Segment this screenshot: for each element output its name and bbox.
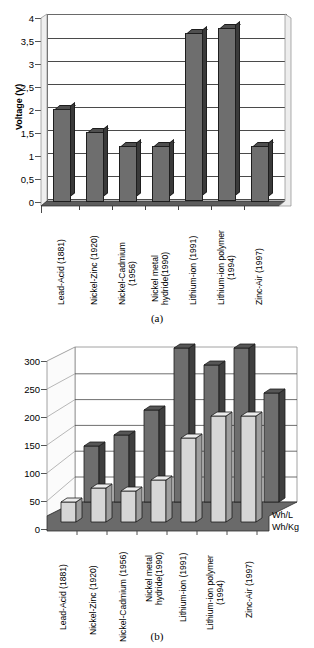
xlabel-line1: Nickel-Zinc (1920) — [88, 565, 98, 635]
chart-b-energy-density: 300 250 200 150 100 50 0 — [0, 330, 314, 648]
chart-b-xlabel-lithium-ion-polymer: Lithium-ion polymer (1994) — [206, 555, 225, 630]
chart-b-xlabel-nickel-cadmium: Nickel-Cadmium (1956) — [118, 552, 128, 642]
chart-b-xlabel-lead-acid: Lead-Acid (1881) — [58, 564, 68, 630]
xlabel-line1: Zinc-Air (1997) — [244, 561, 254, 618]
chart-a-x-tickmark — [112, 206, 113, 210]
xlabel-line2: (1994) — [227, 230, 237, 305]
xlabel-line1: Nickel-Zinc (1920) — [89, 235, 99, 305]
xlabel-line2: hydride(1990) — [161, 252, 171, 305]
xlabel-line1: Lithium-ion (1991) — [188, 236, 198, 305]
bar-nickel-cadmium — [119, 146, 137, 202]
chart-a-x-tickmark — [211, 206, 212, 210]
chart-a-x-tickmark — [244, 206, 245, 210]
chart-a-ytick-0: 0 — [2, 197, 34, 208]
chart-a-x-tickmark — [79, 206, 80, 210]
chart-a-xlabel-lead-acid: Lead-Acid (1881) — [56, 239, 66, 305]
bar-lithium-ion-polymer — [218, 28, 236, 201]
bar-zinc-air — [251, 146, 269, 202]
chart-a-ytick-2.5: 2,5 — [2, 82, 34, 93]
chart-a-ytick-1.5: 1,5 — [2, 128, 34, 139]
xlabel-line1: Nickel-Cadmium (1956) — [118, 552, 128, 642]
bar-nickel-zinc — [86, 132, 104, 202]
chart-a-ytick-3: 3 — [2, 59, 34, 70]
bar-lithium-ion — [185, 33, 203, 201]
bar-side-face — [169, 139, 174, 197]
chart-b-xlabel-zinc-air: Zinc-Air (1997) — [244, 561, 254, 618]
bar-lead-acid — [53, 109, 71, 202]
bar-side-face — [136, 139, 141, 197]
chart-a-gridline — [48, 38, 286, 39]
bar-side-face — [235, 21, 240, 196]
chart-a-xlabel-lithium-ion: Lithium-ion (1991) — [188, 236, 198, 305]
chart-b-xlabel-nickel-zinc: Nickel-Zinc (1920) — [88, 565, 98, 635]
chart-b-caption: (b) — [0, 630, 314, 642]
bar-side-face — [268, 139, 273, 197]
chart-a-ytick-2: 2 — [2, 105, 34, 116]
legend-item-whl: Wh/L — [272, 510, 293, 520]
chart-a-ytick-4: 4 — [2, 13, 34, 24]
xlabel-line1: Zinc-Air (1997) — [254, 248, 264, 305]
chart-a-gridline — [48, 130, 286, 131]
bar-nickel-metal-hydride — [152, 146, 170, 202]
chart-a-ytick-3.5: 3,5 — [2, 36, 34, 47]
bar-side-face — [202, 26, 207, 196]
chart-a-gridline — [48, 84, 286, 85]
bar-side-face — [70, 102, 75, 197]
chart-a-xlabel-zinc-air: Zinc-Air (1997) — [254, 248, 264, 305]
figure-page: Voltage (V) 4 3,5 3 2,5 2 1,5 1 0,5 0 — [0, 0, 314, 648]
xlabel-line2: hydride(1990) — [155, 552, 165, 605]
chart-a-xlabel-nickel-zinc: Nickel-Zinc (1920) — [89, 235, 99, 305]
chart-a-voltage: Voltage (V) 4 3,5 3 2,5 2 1,5 1 0,5 0 — [0, 0, 314, 330]
chart-a-gridline — [48, 61, 286, 62]
chart-a-x-tickmark — [178, 206, 179, 210]
chart-a-xlabel-lithium-ion-polymer: Lithium-ion polymer (1994) — [217, 230, 236, 305]
xlabel-line1: Lithium-ion (1991) — [178, 553, 188, 622]
xlabel-line1: Lead-Acid (1881) — [56, 239, 66, 305]
legend-item-whkg: Wh/Kg — [272, 522, 299, 532]
chart-a-ytick-0.5: 0,5 — [2, 174, 34, 185]
xlabel-line2: (1994) — [216, 555, 226, 630]
xlabel-line2: (1956) — [128, 242, 138, 305]
chart-a-xlabel-nickel-metal-hydride: Nickel metal hydride(1990) — [151, 252, 170, 305]
chart-b-xlabel-lithium-ion: Lithium-ion (1991) — [178, 553, 188, 622]
chart-a-xlabel-nickel-cadmium: Nickel-Cadmium (1956) — [118, 242, 137, 305]
bar-side-face — [103, 125, 108, 197]
xlabel-line1: Lead-Acid (1881) — [58, 564, 68, 630]
chart-a-gridline — [48, 107, 286, 108]
chart-a-x-tickmark — [145, 206, 146, 210]
chart-a-ytick-1: 1 — [2, 151, 34, 162]
chart-b-xlabel-nickel-metal-hydride: Nickel metal hydride(1990) — [145, 552, 164, 605]
chart-a-y-axis-line — [41, 18, 42, 213]
chart-a-caption: (a) — [0, 312, 314, 324]
